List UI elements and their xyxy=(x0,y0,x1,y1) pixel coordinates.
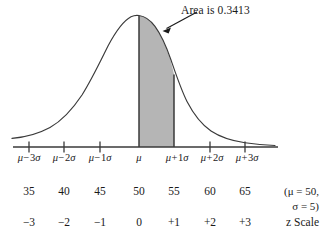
value-label-65: 65 xyxy=(239,185,251,197)
area-annotation-label: Area is 0.3413 xyxy=(181,4,250,16)
z-label-minus-3: −3 xyxy=(23,216,35,228)
axis-label-mu: μ xyxy=(136,152,141,163)
parameters-caption: (μ = 50, σ = 5) xyxy=(284,184,319,214)
axis-label-plus-1-sigma: μ+1σ xyxy=(166,152,189,163)
value-label-60: 60 xyxy=(204,185,216,197)
z-label-minus-2: −2 xyxy=(58,216,70,228)
parameters-caption-line1: (μ = 50, xyxy=(284,184,319,199)
value-label-35: 35 xyxy=(23,185,35,197)
axis-label-minus-2-sigma: μ−2σ xyxy=(53,152,76,163)
axis-label-minus-1-sigma: μ−1σ xyxy=(89,152,112,163)
z-label-plus-3: +3 xyxy=(239,216,251,228)
z-label-minus-1: −1 xyxy=(94,216,106,228)
z-label-plus-2: +2 xyxy=(204,216,216,228)
value-label-40: 40 xyxy=(58,185,70,197)
value-label-45: 45 xyxy=(94,185,106,197)
z-label-zero: 0 xyxy=(136,216,142,228)
axis-label-plus-3-sigma: μ+3σ xyxy=(236,152,259,163)
parameters-caption-line2: σ = 5) xyxy=(284,199,319,214)
z-scale-caption: z Scale xyxy=(286,216,319,228)
axis-label-plus-2-sigma: μ+2σ xyxy=(201,152,224,163)
normal-distribution-figure: Area is 0.3413 μ−3σ μ−2σ μ−1σ μ μ+1σ μ+2… xyxy=(0,0,325,248)
value-label-50: 50 xyxy=(133,185,145,197)
value-label-55: 55 xyxy=(168,185,180,197)
axis-label-minus-3-sigma: μ−3σ xyxy=(18,152,41,163)
normal-curve-graphic xyxy=(0,0,325,248)
z-label-plus-1: +1 xyxy=(168,216,180,228)
shaded-area-region xyxy=(139,16,174,148)
